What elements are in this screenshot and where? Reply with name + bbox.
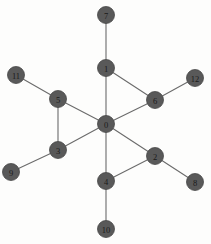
graph-node-2[interactable]: 2 <box>147 148 164 165</box>
graph-node-label-3: 3 <box>56 146 60 156</box>
graph-node-label-1: 1 <box>104 64 108 74</box>
graph-node-8[interactable]: 8 <box>187 174 204 191</box>
graph-node-11[interactable]: 11 <box>8 67 25 84</box>
graph-node-label-5: 5 <box>56 95 60 105</box>
node-layer: 0123456789101112 <box>3 7 204 238</box>
graph-node-label-0: 0 <box>104 120 108 130</box>
graph-node-4[interactable]: 4 <box>98 173 115 190</box>
graph-node-label-12: 12 <box>191 74 200 84</box>
graph-node-10[interactable]: 10 <box>98 221 115 238</box>
graph-node-9[interactable]: 9 <box>3 164 20 181</box>
graph-node-3[interactable]: 3 <box>50 142 67 159</box>
graph-canvas: 0123456789101112 <box>0 0 211 244</box>
graph-node-label-2: 2 <box>153 152 157 162</box>
graph-node-7[interactable]: 7 <box>98 7 115 24</box>
graph-node-label-9: 9 <box>9 168 13 178</box>
graph-node-label-8: 8 <box>193 178 197 188</box>
graph-node-label-7: 7 <box>104 11 108 21</box>
graph-node-0[interactable]: 0 <box>98 116 115 133</box>
graph-figure: 0123456789101112 <box>0 0 211 244</box>
graph-node-6[interactable]: 6 <box>147 92 164 109</box>
graph-node-5[interactable]: 5 <box>50 91 67 108</box>
graph-node-label-10: 10 <box>102 225 111 235</box>
graph-node-12[interactable]: 12 <box>187 70 204 87</box>
graph-node-label-11: 11 <box>12 71 20 81</box>
graph-node-label-6: 6 <box>153 96 157 106</box>
graph-node-1[interactable]: 1 <box>98 60 115 77</box>
